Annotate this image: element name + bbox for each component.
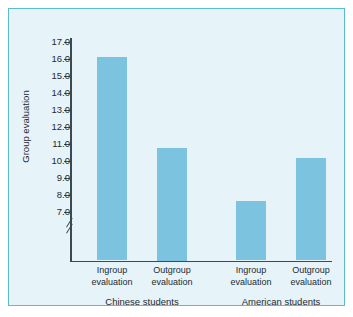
x-category-label-line1: Outgroup — [153, 265, 191, 275]
y-tick-label: 8.0 — [36, 190, 70, 200]
x-category-label: Outgroupevaluation — [134, 265, 210, 288]
axis-break-icon — [63, 217, 79, 235]
x-category-label-line1: Ingroup — [236, 265, 267, 275]
y-tick-label: 16.0 — [36, 54, 70, 64]
y-tick-label: 10.0 — [36, 156, 70, 166]
y-axis-title: Group evaluation — [20, 67, 31, 187]
figure-panel: Group evaluation 17.016.015.014.013.012.… — [8, 8, 345, 306]
x-category-label-line1: Ingroup — [97, 265, 128, 275]
x-category-label-line2: evaluation — [134, 277, 210, 289]
x-group-label: Chinese students — [67, 296, 217, 307]
bar — [296, 158, 326, 261]
x-category-label-line1: Outgroup — [292, 265, 330, 275]
x-axis-line — [70, 261, 332, 263]
bar — [236, 201, 266, 261]
y-tick-label: 11.0 — [36, 139, 70, 149]
x-category-label: Outgroupevaluation — [273, 265, 349, 288]
y-tick-label: 12.0 — [36, 122, 70, 132]
y-tick-label: 14.0 — [36, 88, 70, 98]
y-tick-label: 17.0 — [36, 37, 70, 47]
y-tick-label: 13.0 — [36, 105, 70, 115]
bar — [97, 57, 127, 260]
x-group-label: American students — [206, 296, 353, 307]
bar — [157, 148, 187, 260]
x-category-label-line2: evaluation — [273, 277, 349, 289]
y-tick-label: 9.0 — [36, 173, 70, 183]
y-tick-label: 15.0 — [36, 71, 70, 81]
y-tick-label: 7.0 — [36, 207, 70, 217]
chart-plot-area: Group evaluation 17.016.015.014.013.012.… — [9, 9, 344, 305]
